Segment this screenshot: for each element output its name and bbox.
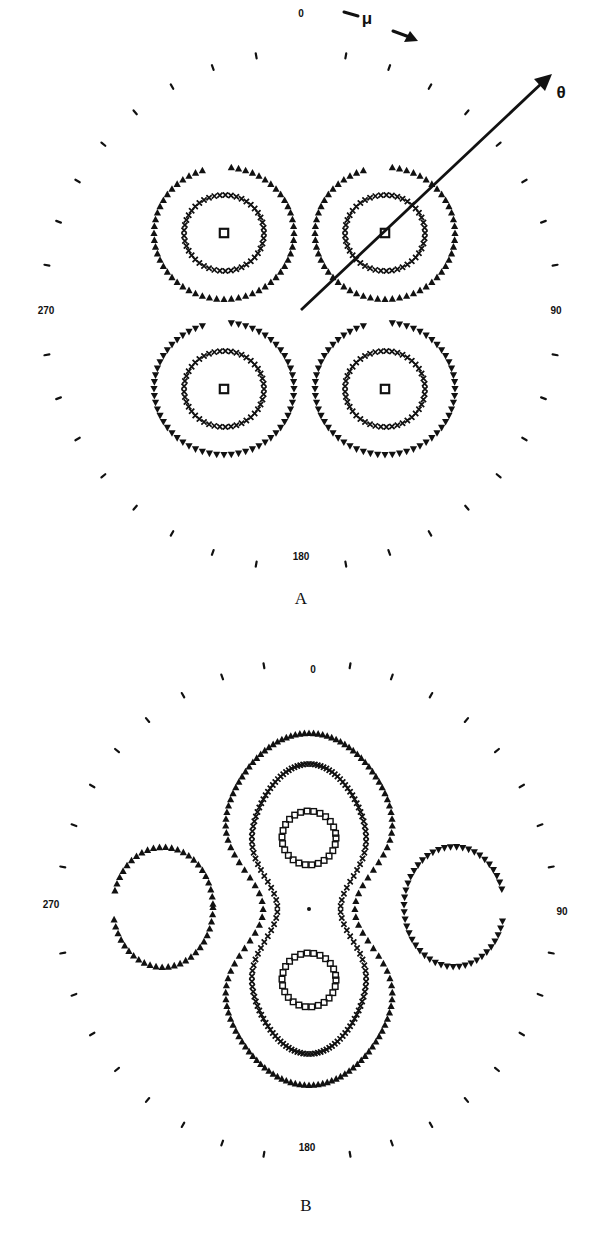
tick-mark	[541, 221, 546, 223]
cross-marker	[342, 384, 347, 389]
square-marker	[282, 989, 288, 995]
triangle-marker	[231, 960, 238, 967]
triangle-marker	[384, 967, 391, 974]
triangle-marker	[256, 890, 263, 897]
triangle-down-marker	[281, 353, 288, 360]
cross-marker	[348, 934, 353, 939]
triangle-down-marker	[281, 419, 288, 426]
triangle-up-marker	[321, 262, 328, 269]
triangle-up-marker	[242, 292, 249, 299]
tick-mark	[256, 562, 257, 567]
cross-marker	[362, 850, 367, 855]
triangle-down-marker	[249, 446, 256, 453]
triangle-marker	[402, 887, 409, 894]
cross-marker	[362, 197, 367, 202]
triangle-down-marker	[287, 366, 294, 373]
mu-annotation: μ	[344, 9, 418, 42]
cross-marker	[358, 356, 363, 361]
triangle-up-marker	[160, 262, 167, 269]
tick-mark	[44, 354, 49, 355]
triangle-marker	[121, 942, 128, 949]
triangle-down-marker	[267, 435, 274, 442]
triangle-up-marker	[423, 176, 430, 183]
triangle-up-marker	[277, 268, 284, 275]
tick-mark	[72, 994, 77, 996]
triangle-down-marker	[360, 449, 367, 456]
tick-mark	[522, 438, 526, 441]
triangle-down-marker	[228, 320, 235, 327]
triangle-marker	[225, 802, 232, 809]
triangle-down-marker	[353, 446, 360, 453]
square-marker	[315, 861, 321, 867]
lobe	[150, 164, 297, 302]
triangle-up-marker	[213, 295, 220, 302]
cross-marker	[400, 196, 405, 201]
triangle-up-marker	[360, 167, 367, 174]
cross-marker	[249, 979, 254, 984]
cross-marker	[342, 389, 347, 394]
triangle-marker	[110, 916, 117, 923]
triangle-marker	[114, 930, 121, 937]
triangle-marker	[227, 796, 234, 803]
triangle-up-marker	[396, 165, 403, 172]
cross-marker	[361, 819, 366, 824]
triangle-down-marker	[423, 439, 430, 446]
cross-marker	[261, 225, 266, 230]
triangle-down-marker	[152, 400, 159, 407]
cross-marker	[351, 939, 356, 944]
tick-mark	[171, 531, 174, 535]
triangle-marker	[241, 866, 248, 873]
cross-marker	[253, 856, 258, 861]
triangle-down-marker	[450, 372, 457, 379]
triangle-up-marker	[160, 196, 167, 203]
triangle-down-marker	[317, 359, 324, 366]
tick-mark	[146, 1098, 149, 1102]
triangle-up-marker	[450, 243, 457, 250]
cross-marker	[223, 424, 228, 429]
tick-mark	[60, 867, 65, 868]
triangle-up-marker	[287, 209, 294, 216]
mu-label: μ	[362, 9, 372, 28]
square-marker	[304, 950, 310, 956]
cross-marker	[367, 351, 372, 356]
cross-marker	[339, 915, 344, 920]
triangle-down-marker	[262, 439, 269, 446]
tick-mark	[495, 749, 499, 752]
triangle-up-marker	[199, 292, 206, 299]
angle-label-270: 270	[43, 899, 60, 910]
cross-marker	[343, 238, 348, 243]
triangle-down-marker	[451, 379, 458, 386]
triangle-up-marker	[281, 196, 288, 203]
cross-marker	[217, 349, 222, 354]
triangle-up-marker	[154, 250, 161, 257]
square-marker	[332, 842, 338, 848]
triangle-marker	[490, 867, 497, 874]
cross-marker	[342, 228, 347, 233]
triangle-down-marker	[242, 449, 249, 456]
triangle-up-marker	[154, 209, 161, 216]
cross-marker	[422, 230, 427, 235]
triangle-down-marker	[442, 419, 449, 426]
tick-mark	[388, 550, 390, 555]
triangle-down-marker	[313, 400, 320, 407]
triangle-down-marker	[448, 406, 455, 413]
triangle-up-marker	[192, 169, 199, 176]
triangle-up-marker	[374, 295, 381, 302]
cross-marker	[234, 267, 239, 272]
triangle-up-marker	[206, 294, 213, 301]
tick-mark	[72, 824, 77, 826]
triangle-up-marker	[290, 223, 297, 230]
cross-marker	[416, 366, 421, 371]
square-marker	[311, 809, 317, 815]
panel-label-a: A	[295, 589, 308, 608]
triangle-down-marker	[423, 333, 430, 340]
triangle-marker	[116, 873, 123, 880]
triangle-down-marker	[321, 353, 328, 360]
triangle-marker	[236, 952, 243, 959]
cross-marker	[367, 195, 372, 200]
cross-marker	[212, 423, 217, 428]
triangle-down-marker	[255, 443, 262, 450]
triangle-down-marker	[360, 323, 367, 330]
triangle-down-marker	[438, 347, 445, 354]
cross-marker	[422, 236, 427, 241]
